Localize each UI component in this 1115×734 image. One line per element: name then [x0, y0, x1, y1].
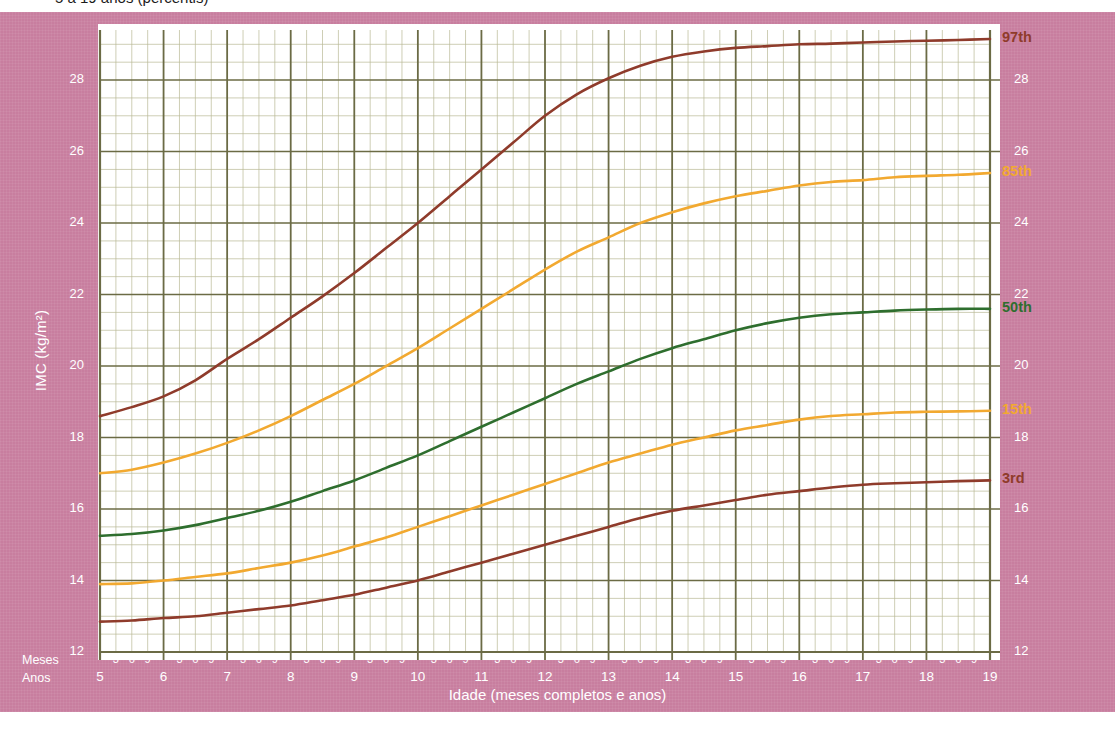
y-axis-title: IMC (kg/m²)	[32, 281, 49, 421]
chart-svg	[0, 12, 1115, 712]
y-tick-label-left: 24	[54, 214, 84, 229]
y-tick-label-right: 18	[1014, 429, 1044, 444]
x-tick-label-month: 3	[871, 653, 887, 665]
x-tick-label-month: 3	[362, 653, 378, 665]
x-tick-label-month: 9	[775, 653, 791, 665]
x-tick-label-month: 6	[505, 653, 521, 665]
x-tick-label-month: 9	[521, 653, 537, 665]
x-tick-label-year: 9	[343, 669, 365, 684]
x-tick-label-month: 6	[823, 653, 839, 665]
x-tick-label-year: 13	[598, 669, 620, 684]
y-tick-label-left: 12	[54, 643, 84, 658]
x-tick-label-month: 9	[712, 653, 728, 665]
plot-background	[98, 24, 1000, 660]
x-tick-label-month: 6	[760, 653, 776, 665]
y-tick-label-right: 26	[1014, 143, 1044, 158]
x-tick-label-year: 6	[153, 669, 175, 684]
x-tick-label-month: 9	[330, 653, 346, 665]
x-tick-label-month: 3	[489, 653, 505, 665]
y-tick-label-right: 24	[1014, 214, 1044, 229]
x-tick-label-year: 16	[788, 669, 810, 684]
plot-area: IMC (kg/m²) Idade (meses completos e ano…	[0, 12, 1115, 712]
y-tick-label-left: 26	[54, 143, 84, 158]
percentile-label-15th: 15th	[1002, 401, 1032, 417]
y-tick-label-left: 20	[54, 357, 84, 372]
x-tick-label-month: 3	[553, 653, 569, 665]
x-tick-label-month: 6	[632, 653, 648, 665]
percentile-label-85th: 85th	[1002, 163, 1032, 179]
y-tick-label-left: 14	[54, 572, 84, 587]
x-tick-label-year: 15	[725, 669, 747, 684]
x-axis-title: Idade (meses completos e anos)	[0, 686, 1115, 703]
x-tick-label-month: 6	[315, 653, 331, 665]
y-tick-label-right: 20	[1014, 357, 1044, 372]
axis-row-label-years: Anos	[22, 671, 51, 685]
x-tick-label-month: 9	[839, 653, 855, 665]
x-tick-label-month: 9	[966, 653, 982, 665]
x-tick-label-month: 9	[203, 653, 219, 665]
chart-title-cropped: 5 a 19 anos (percentis)	[55, 0, 208, 6]
x-tick-label-year: 10	[407, 669, 429, 684]
x-tick-label-month: 6	[887, 653, 903, 665]
x-tick-label-month: 3	[235, 653, 251, 665]
y-tick-label-left: 22	[54, 286, 84, 301]
x-tick-label-year: 11	[470, 669, 492, 684]
x-tick-label-month: 9	[903, 653, 919, 665]
x-tick-label-month: 6	[124, 653, 140, 665]
y-tick-label-left: 16	[54, 500, 84, 515]
y-tick-label-right: 14	[1014, 572, 1044, 587]
x-tick-label-month: 3	[934, 653, 950, 665]
percentile-label-3rd: 3rd	[1002, 470, 1025, 486]
x-tick-label-month: 3	[807, 653, 823, 665]
title-strip: 5 a 19 anos (percentis)	[0, 0, 1115, 12]
y-tick-label-left: 18	[54, 429, 84, 444]
x-tick-label-month: 3	[426, 653, 442, 665]
x-tick-label-month: 9	[267, 653, 283, 665]
x-tick-label-month: 6	[442, 653, 458, 665]
x-tick-label-year: 12	[534, 669, 556, 684]
x-tick-label-year: 19	[979, 669, 1001, 684]
y-tick-label-right: 28	[1014, 71, 1044, 86]
x-tick-label-year: 7	[216, 669, 238, 684]
x-tick-label-year: 17	[852, 669, 874, 684]
x-tick-label-month: 9	[458, 653, 474, 665]
percentile-label-97th: 97th	[1002, 29, 1032, 45]
x-tick-label-month: 6	[187, 653, 203, 665]
percentile-label-50th: 50th	[1002, 299, 1032, 315]
x-tick-label-month: 6	[378, 653, 394, 665]
x-tick-label-year: 5	[89, 669, 111, 684]
y-tick-label-right: 16	[1014, 500, 1044, 515]
x-tick-label-month: 6	[950, 653, 966, 665]
x-tick-label-month: 6	[251, 653, 267, 665]
x-tick-label-month: 9	[648, 653, 664, 665]
y-tick-label-right: 12	[1014, 643, 1044, 658]
x-tick-label-month: 6	[569, 653, 585, 665]
x-tick-label-year: 8	[280, 669, 302, 684]
x-tick-label-month: 3	[171, 653, 187, 665]
x-tick-label-month: 3	[744, 653, 760, 665]
x-tick-label-year: 18	[915, 669, 937, 684]
x-tick-label-month: 3	[299, 653, 315, 665]
x-tick-label-month: 9	[394, 653, 410, 665]
x-tick-label-month: 9	[140, 653, 156, 665]
chart-poster-panel: IMC (kg/m²) Idade (meses completos e ano…	[0, 12, 1115, 712]
bottom-white-margin	[0, 712, 1115, 734]
x-tick-label-year: 14	[661, 669, 683, 684]
y-tick-label-left: 28	[54, 71, 84, 86]
x-tick-label-month: 3	[108, 653, 124, 665]
x-tick-label-month: 6	[696, 653, 712, 665]
x-tick-label-month: 9	[585, 653, 601, 665]
x-tick-label-month: 3	[680, 653, 696, 665]
x-tick-label-month: 3	[616, 653, 632, 665]
